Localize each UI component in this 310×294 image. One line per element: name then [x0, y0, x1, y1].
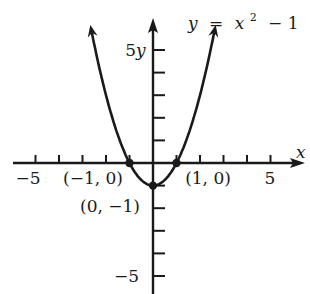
x-tick-label-neg5: −5 — [15, 168, 40, 188]
x-tick-label-5: 5 — [265, 168, 276, 188]
graph: y x 5 −5 −5 5 (−1, 0) (1, 0) (0, −1) y =… — [0, 0, 310, 294]
annotation-0-neg1: (0, −1) — [80, 196, 140, 216]
y-axis-label: y — [135, 40, 146, 60]
intercept-point — [125, 159, 133, 167]
equation-label: y = x 2 − 1 — [187, 5, 299, 33]
y-tick-label-5: 5 — [125, 40, 136, 60]
y-tick-label-neg5: −5 — [114, 266, 139, 286]
intercept-point — [149, 181, 157, 189]
annotation-1-0: (1, 0) — [185, 168, 231, 188]
annotation-neg1-0: (−1, 0) — [63, 168, 123, 188]
x-axis-label: x — [296, 142, 306, 162]
intercept-point — [172, 159, 180, 167]
